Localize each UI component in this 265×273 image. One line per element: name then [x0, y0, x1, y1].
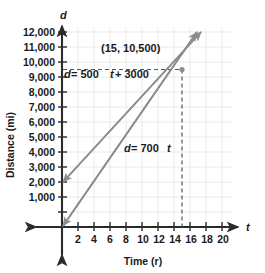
- y-tick-label: 3,000: [29, 161, 55, 173]
- x-tick-label: 12: [153, 233, 165, 245]
- equation-1-constant: + 3000: [115, 68, 149, 80]
- y-axis-title: Distance (mi): [4, 112, 16, 178]
- y-tick-label: 11,000: [23, 41, 55, 53]
- x-tick-label: 4: [91, 233, 97, 245]
- equation-1-variable: d: [64, 68, 71, 80]
- chart-container: 12,000 11,000 10,000 9,000 8,000 7,000 6…: [0, 0, 265, 273]
- grid-lines: [62, 28, 232, 227]
- intersection-point-label: (15, 10,500): [101, 42, 161, 54]
- x-tick-label: 10: [137, 233, 149, 245]
- y-axis-symbol-label: d: [60, 9, 67, 21]
- y-tick-label: 5,000: [29, 131, 55, 143]
- y-tick-label: 1,000: [29, 191, 55, 203]
- y-tick-label: 9,000: [29, 71, 55, 83]
- x-tick-label: 20: [217, 233, 229, 245]
- x-axis-symbol-label: t: [246, 221, 251, 233]
- equation-1-operator: = 500: [71, 68, 99, 80]
- x-tick-label: 16: [185, 233, 197, 245]
- x-tick-label: 2: [75, 233, 81, 245]
- y-tick-label: 8,000: [29, 86, 55, 98]
- y-tick-label: 10,000: [23, 56, 55, 68]
- coordinate-plane-chart: 12,000 11,000 10,000 9,000 8,000 7,000 6…: [0, 0, 265, 273]
- x-tick-labels: 2 4 6 8 10 12 14 16 18 20: [75, 233, 229, 245]
- equation-2-variable: d: [124, 142, 131, 154]
- y-tick-label: 7,000: [29, 101, 55, 113]
- guide-lines: [63, 70, 182, 228]
- y-tick-label: 4,000: [29, 146, 55, 158]
- equation-2-operator: = 700: [131, 142, 159, 154]
- x-tick-label: 8: [123, 233, 129, 245]
- intersection-point-marker: [179, 67, 184, 72]
- x-axis-title: Time (r): [124, 255, 162, 267]
- y-tick-label: 12,000: [23, 26, 55, 38]
- y-tick-label: 6,000: [29, 116, 55, 128]
- y-tick-label: 2,000: [29, 176, 55, 188]
- y-tick-labels: 12,000 11,000 10,000 9,000 8,000 7,000 6…: [23, 26, 55, 203]
- x-tick-label: 14: [169, 233, 181, 245]
- x-tick-label: 18: [201, 233, 213, 245]
- x-tick-label: 6: [107, 233, 113, 245]
